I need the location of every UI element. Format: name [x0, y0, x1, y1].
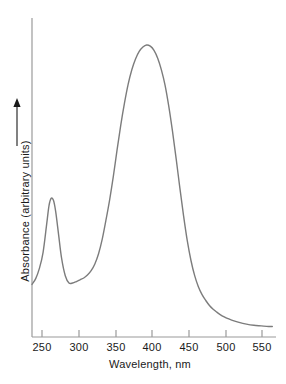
- x-tick-label-250: 250: [22, 341, 62, 353]
- x-tick-label-450: 450: [169, 341, 209, 353]
- x-tick-label-550: 550: [242, 341, 282, 353]
- spectrum-curve: [32, 45, 272, 327]
- x-tick-label-350: 350: [96, 341, 136, 353]
- x-axis-ticks: [42, 330, 262, 337]
- x-tick-label-500: 500: [206, 341, 246, 353]
- absorbance-spectrum-chart: 250 300 350 400 450 500 550 Wavelength, …: [0, 0, 286, 384]
- x-tick-label-400: 400: [132, 341, 172, 353]
- y-axis-title: Absorbance (arbitrary units): [19, 116, 31, 306]
- x-tick-label-300: 300: [59, 341, 99, 353]
- chart-plot-area: [0, 0, 286, 384]
- x-axis-title: Wavelength, nm: [60, 358, 240, 370]
